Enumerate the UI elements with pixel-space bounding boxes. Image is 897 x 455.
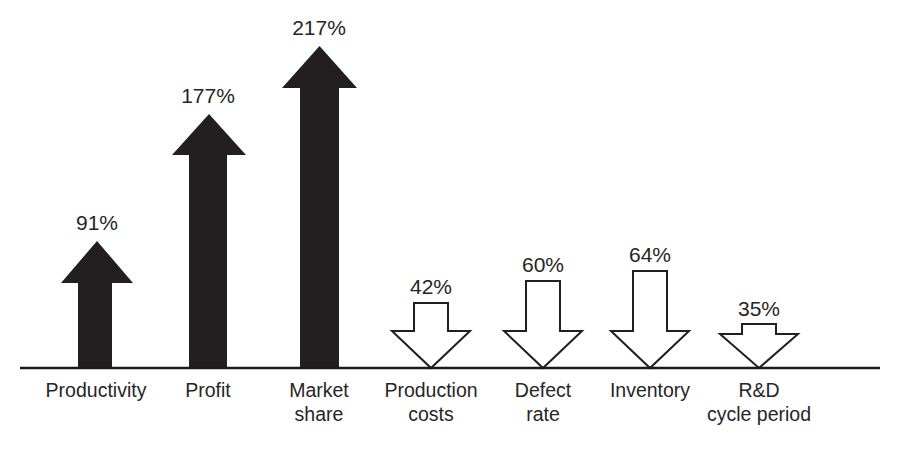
category-label-rd-cycle-period: R&Dcycle period — [707, 378, 811, 426]
category-label-line2: costs — [384, 402, 477, 426]
category-label-line1: Inventory — [610, 379, 690, 401]
category-label-line1: Productivity — [46, 379, 147, 401]
category-label-line1: R&D — [738, 379, 779, 401]
arrow-profit — [172, 114, 246, 368]
arrow-chart: 91%Productivity177%Profit217%Marketshare… — [0, 0, 897, 455]
category-label-defect-rate: Defectrate — [515, 378, 571, 426]
category-label-line1: Production — [384, 379, 477, 401]
arrow-productivity — [61, 241, 133, 368]
arrow-production-costs — [392, 303, 470, 368]
category-label-line2: rate — [515, 402, 571, 426]
value-label-defect-rate: 60% — [522, 254, 564, 275]
category-label-market-share: Marketshare — [289, 378, 349, 426]
arrow-shapes-group — [61, 46, 798, 368]
category-label-profit: Profit — [185, 378, 231, 402]
arrow-inventory — [611, 271, 689, 368]
value-label-inventory: 64% — [629, 244, 671, 265]
category-label-line1: Defect — [515, 379, 571, 401]
value-label-productivity: 91% — [76, 212, 118, 233]
arrow-rd-cycle-period — [720, 324, 798, 368]
category-label-line2: share — [289, 402, 349, 426]
category-label-line2: cycle period — [707, 402, 811, 426]
category-label-productivity: Productivity — [46, 378, 147, 402]
value-label-profit: 177% — [181, 85, 235, 106]
value-label-production-costs: 42% — [410, 276, 452, 297]
category-label-production-costs: Productioncosts — [384, 378, 477, 426]
category-label-line1: Profit — [185, 379, 231, 401]
value-label-market-share: 217% — [292, 17, 346, 38]
value-label-rd-cycle-period: 35% — [738, 298, 780, 319]
category-label-inventory: Inventory — [610, 378, 690, 402]
arrow-market-share — [282, 46, 357, 368]
arrow-defect-rate — [504, 281, 582, 368]
category-label-line1: Market — [289, 379, 349, 401]
